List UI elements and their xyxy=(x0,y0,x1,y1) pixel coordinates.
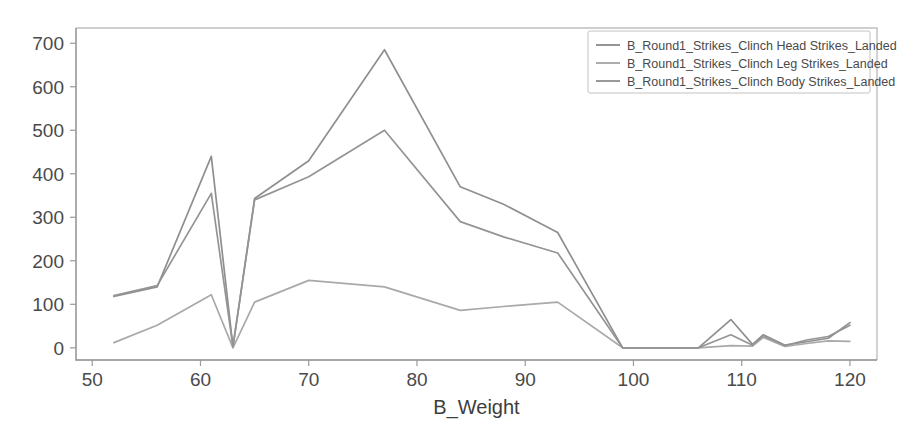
y-tick-label: 200 xyxy=(32,251,64,272)
x-axis-title: B_Weight xyxy=(433,396,520,419)
series-line-2 xyxy=(114,130,850,348)
x-tick-label: 70 xyxy=(298,369,319,390)
x-tick-label: 60 xyxy=(190,369,211,390)
y-tick-label: 500 xyxy=(32,120,64,141)
x-tick-label: 90 xyxy=(515,369,536,390)
y-tick-label: 600 xyxy=(32,77,64,98)
y-tick-label: 400 xyxy=(32,164,64,185)
chart-legend: B_Round1_Strikes_Clinch Head Strikes_Lan… xyxy=(588,31,897,93)
y-tick-label: 0 xyxy=(53,338,64,359)
legend-label-1: B_Round1_Strikes_Clinch Leg Strikes_Land… xyxy=(627,57,888,71)
x-tick-label: 100 xyxy=(618,369,650,390)
x-tick-label: 110 xyxy=(727,369,757,390)
line-chart-canvas: 5060708090100110120 01002003004005006007… xyxy=(0,0,899,434)
x-axis-ticks: 5060708090100110120 xyxy=(82,360,866,390)
chart-figure: 5060708090100110120 01002003004005006007… xyxy=(0,0,899,434)
legend-label-2: B_Round1_Strikes_Clinch Body Strikes_Lan… xyxy=(627,75,895,89)
data-series-group xyxy=(114,50,850,348)
y-axis-ticks: 0100200300400500600700 xyxy=(32,33,76,359)
series-line-0 xyxy=(114,50,850,348)
y-tick-label: 100 xyxy=(32,294,64,315)
legend-label-0: B_Round1_Strikes_Clinch Head Strikes_Lan… xyxy=(627,39,897,53)
y-tick-label: 700 xyxy=(32,33,64,54)
x-tick-label: 120 xyxy=(834,369,866,390)
x-tick-label: 80 xyxy=(406,369,427,390)
y-tick-label: 300 xyxy=(32,207,64,228)
x-tick-label: 50 xyxy=(82,369,103,390)
